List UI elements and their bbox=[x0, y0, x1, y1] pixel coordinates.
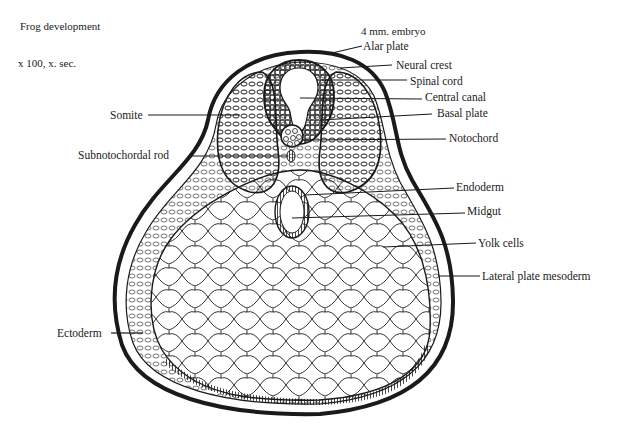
label-subnotochordal-rod: Subnotochordal rod bbox=[78, 149, 169, 161]
label-midgut: Midgut bbox=[467, 205, 501, 217]
label-basal-plate: Basal plate bbox=[437, 107, 488, 119]
label-spinal-cord: Spinal cord bbox=[410, 75, 463, 87]
label-ectoderm: Ectoderm bbox=[57, 327, 102, 339]
midgut-lumen bbox=[280, 191, 304, 233]
label-central-canal: Central canal bbox=[425, 91, 486, 103]
label-somite: Somite bbox=[110, 109, 143, 121]
label-lateral-plate-mesoderm: Lateral plate mesoderm bbox=[482, 270, 591, 282]
label-neural-crest: Neural crest bbox=[396, 59, 452, 71]
label-notochord: Notochord bbox=[449, 132, 498, 144]
label-yolk-cells: Yolk cells bbox=[478, 237, 524, 249]
subnotochordal-rod bbox=[287, 150, 295, 162]
label-endoderm: Endoderm bbox=[456, 181, 504, 193]
embryo-cross-section bbox=[0, 0, 630, 436]
label-alar-plate: Alar plate bbox=[363, 40, 409, 52]
